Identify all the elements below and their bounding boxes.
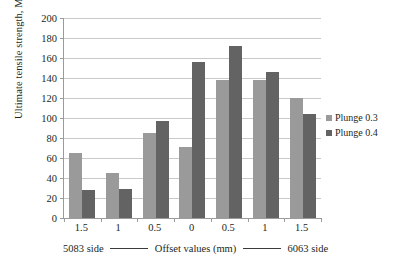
- bar: [82, 190, 95, 218]
- bar: [156, 121, 169, 218]
- bar: [253, 80, 266, 218]
- x-axis-right-side-label: 6063 side: [288, 243, 329, 254]
- x-axis-tick-label: 0: [189, 222, 194, 233]
- bar-group: [248, 18, 285, 218]
- x-axis-caption: 5083 side Offset values (mm) 6063 side: [63, 243, 320, 254]
- x-axis-tick: [64, 218, 65, 222]
- legend-item[interactable]: Plunge 0.4: [326, 125, 378, 140]
- bar-chart: Ultimate tensile strength, Mpa 020406080…: [0, 0, 394, 278]
- y-axis-tick-label: 120: [17, 93, 57, 104]
- bar-group: [137, 18, 174, 218]
- x-axis-tick-label: 1.5: [295, 222, 308, 233]
- y-axis-tick-label: 40: [17, 173, 57, 184]
- x-axis-tick: [211, 218, 212, 222]
- bar-group: [174, 18, 211, 218]
- bar: [229, 46, 242, 218]
- chart-legend: Plunge 0.3Plunge 0.4: [326, 110, 378, 140]
- legend-item-label: Plunge 0.3: [335, 110, 378, 125]
- bar: [216, 80, 229, 218]
- y-axis-tick-label: 100: [17, 113, 57, 124]
- bar-group: [101, 18, 138, 218]
- legend-item-label: Plunge 0.4: [335, 125, 378, 140]
- bar: [303, 114, 316, 218]
- y-axis-tick-label: 160: [17, 53, 57, 64]
- x-axis-tick-label: 1.5: [75, 222, 88, 233]
- x-axis-tick: [248, 218, 249, 222]
- y-axis-tick-label: 140: [17, 73, 57, 84]
- x-axis-tick: [174, 218, 175, 222]
- plot-area: 020406080100120140160180200: [63, 18, 321, 219]
- bar: [290, 98, 303, 218]
- x-axis-tick-label: 1: [262, 222, 267, 233]
- bar: [119, 189, 132, 218]
- bar: [266, 72, 279, 218]
- x-axis-tick-label: 0.5: [222, 222, 235, 233]
- y-axis-tick-label: 60: [17, 153, 57, 164]
- bar-series-layer: [64, 18, 321, 218]
- y-axis-tick-label: 200: [17, 13, 57, 24]
- x-axis-left-side-label: 5083 side: [63, 243, 104, 254]
- bar: [179, 147, 192, 218]
- x-axis-title: Offset values (mm): [155, 243, 236, 254]
- bar-group: [284, 18, 321, 218]
- y-axis-tick-label: 180: [17, 33, 57, 44]
- caption-rule-left: [110, 248, 148, 249]
- x-axis-tick: [137, 218, 138, 222]
- bar: [192, 62, 205, 218]
- caption-rule-right: [243, 248, 281, 249]
- y-axis-tick-label: 20: [17, 193, 57, 204]
- x-axis-tick: [101, 218, 102, 222]
- bar-group: [64, 18, 101, 218]
- legend-item[interactable]: Plunge 0.3: [326, 110, 378, 125]
- x-axis-tick-label: 1: [115, 222, 120, 233]
- legend-swatch-icon: [326, 130, 332, 136]
- x-axis-tick-label: 0.5: [148, 222, 161, 233]
- bar: [106, 173, 119, 218]
- bar: [143, 133, 156, 218]
- bar: [69, 153, 82, 218]
- y-axis-tick-label: 0: [17, 213, 57, 224]
- x-axis-tick: [321, 218, 322, 222]
- legend-swatch-icon: [326, 115, 332, 121]
- bar-group: [211, 18, 248, 218]
- x-axis-tick: [284, 218, 285, 222]
- y-axis-tick-label: 80: [17, 133, 57, 144]
